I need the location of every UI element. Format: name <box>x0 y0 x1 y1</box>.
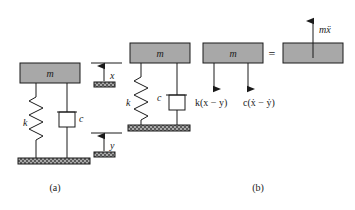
panel-b-system-mass-label: m <box>156 48 163 59</box>
spring-force-label: k(x − y) <box>195 97 227 109</box>
caption-a: (a) <box>49 182 60 194</box>
panel-a-ground <box>18 158 90 164</box>
coordinate-x-label: x <box>109 70 115 81</box>
panel-a-mass-label: m <box>46 68 53 79</box>
panel-a-damper-label: c <box>79 113 84 124</box>
coordinate-y-label: y <box>109 140 115 151</box>
dashpot-icon <box>59 112 75 127</box>
ground-hatch-icon <box>18 158 90 164</box>
panel-b-damper-label: c <box>157 92 162 103</box>
damper-force-label: c(ẋ − ẏ) <box>243 97 275 109</box>
figure-canvas: m k c (a) x <box>0 0 355 210</box>
mechanics-figure: m k c (a) x <box>0 0 355 210</box>
panel-b-dashpot-icon <box>169 95 185 110</box>
equals-sign: = <box>269 47 276 61</box>
panel-a-mass-block: m <box>20 63 80 83</box>
caption-b: (b) <box>252 182 264 194</box>
x-base-block <box>94 82 115 87</box>
panel-a-spring-label: k <box>23 117 28 128</box>
inertia-force-label: mẍ <box>319 24 331 35</box>
panel-b-ground-hatch-icon <box>128 125 190 131</box>
y-base-block <box>94 152 115 157</box>
panel-b-spring-label: k <box>126 97 131 108</box>
free-body-mass-label: m <box>229 48 236 59</box>
